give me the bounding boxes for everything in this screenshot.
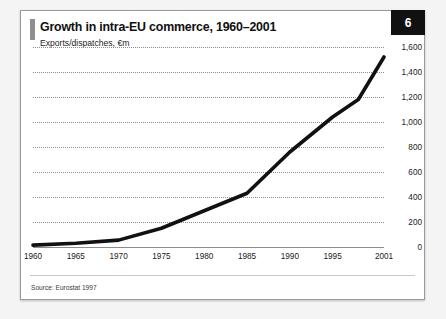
x-axis-tick-label: 1970 [110, 252, 128, 261]
page-title: Growth in intra-EU commerce, 1960–2001 [40, 20, 276, 34]
y-axis-tick-label: 600 [388, 168, 422, 177]
line-series-svg [33, 47, 384, 249]
x-axis-tick-label: 1965 [67, 252, 85, 261]
y-axis-tick-label: 0 [388, 243, 422, 252]
chart-card: Growth in intra-EU commerce, 1960–2001 E… [20, 10, 425, 300]
y-axis-tick-label: 200 [388, 218, 422, 227]
y-axis-tick-label: 1,000 [388, 118, 422, 127]
title-accent-bar [30, 19, 35, 40]
x-axis-tick-label: 1975 [152, 252, 170, 261]
x-axis-tick-label: 1985 [238, 252, 256, 261]
y-axis-tick-label: 1,600 [388, 43, 422, 52]
y-axis-tick-label: 400 [388, 193, 422, 202]
x-axis-tick-label: 1960 [24, 252, 42, 261]
y-axis-tick-label: 800 [388, 143, 422, 152]
x-axis-tick-label: 2001 [375, 252, 393, 261]
source-note: Source: Eurostat 1997 [31, 284, 97, 291]
y-axis-tick-label: 1,200 [388, 93, 422, 102]
plot-area: 02004006008001,0001,2001,4001,600 196019… [33, 47, 414, 271]
footer-divider [30, 275, 415, 276]
x-axis-tick-label: 1995 [324, 252, 342, 261]
x-axis-tick-label: 1990 [281, 252, 299, 261]
y-axis-tick-label: 1,400 [388, 68, 422, 77]
figure-number-badge: 6 [391, 10, 425, 35]
x-axis-tick-label: 1980 [195, 252, 213, 261]
line-series-path [33, 57, 384, 245]
page-background: Growth in intra-EU commerce, 1960–2001 E… [0, 0, 446, 319]
